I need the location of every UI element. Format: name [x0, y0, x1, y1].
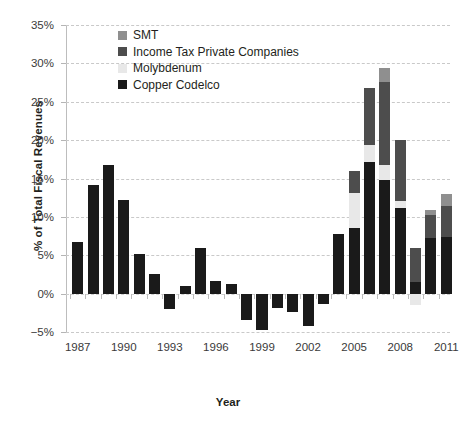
bar-group[interactable]	[103, 25, 114, 332]
bar-segment[interactable]	[364, 88, 375, 146]
bar-segment[interactable]	[103, 165, 114, 294]
bar-segment[interactable]	[379, 82, 390, 165]
bar-segment[interactable]	[349, 193, 360, 228]
bar-segment[interactable]	[287, 294, 298, 312]
x-tick-label: 2011	[423, 341, 463, 353]
x-tick-label: 1987	[55, 341, 101, 353]
x-tick-label: 1996	[193, 341, 239, 353]
x-tick-mark	[70, 294, 71, 299]
bar-segment[interactable]	[164, 294, 175, 309]
y-tick-label: 0%	[0, 288, 54, 300]
legend-label: Molybdenum	[133, 62, 202, 74]
bar-segment[interactable]	[379, 165, 390, 180]
x-tick-label: 2002	[285, 341, 331, 353]
bar-segment[interactable]	[441, 206, 452, 237]
bar-segment[interactable]	[149, 274, 160, 293]
x-tick-label: 1990	[101, 341, 147, 353]
bar-segment[interactable]	[118, 200, 129, 294]
bar-group[interactable]	[88, 25, 99, 332]
legend-label: Copper Codelco	[133, 79, 220, 91]
x-tick-label: 1993	[147, 341, 193, 353]
legend-item[interactable]: SMT	[118, 27, 368, 44]
y-tick-label: −5%	[0, 326, 54, 338]
bar-segment[interactable]	[395, 201, 406, 209]
bar-segment[interactable]	[303, 294, 314, 326]
bar-group[interactable]	[425, 25, 436, 332]
x-tick-label: 2005	[331, 341, 377, 353]
legend-item[interactable]: Income Tax Private Companies	[118, 44, 368, 61]
bar-segment[interactable]	[379, 180, 390, 294]
legend-swatch-icon	[118, 31, 127, 40]
bar-group[interactable]	[72, 25, 83, 332]
bar-group[interactable]	[410, 25, 421, 332]
bar-segment[interactable]	[395, 208, 406, 293]
bar-group[interactable]	[441, 25, 452, 332]
bar-segment[interactable]	[441, 237, 452, 294]
bar-segment[interactable]	[425, 238, 436, 293]
y-tick-label: 35%	[0, 19, 54, 31]
y-tick-label: 5%	[0, 249, 54, 261]
bar-segment[interactable]	[226, 284, 237, 293]
bar-segment[interactable]	[410, 294, 421, 306]
x-axis-title: Year	[0, 396, 456, 408]
x-tick-mark	[224, 294, 225, 299]
x-tick-mark	[270, 294, 271, 299]
x-tick-mark	[439, 294, 440, 299]
legend-item[interactable]: Copper Codelco	[118, 77, 368, 94]
bar-segment[interactable]	[364, 145, 375, 162]
bar-group[interactable]	[379, 25, 390, 332]
x-tick-mark	[316, 294, 317, 299]
bar-segment[interactable]	[241, 294, 252, 321]
legend-label: SMT	[133, 29, 158, 41]
bar-segment[interactable]	[195, 248, 206, 293]
x-tick-mark	[193, 294, 194, 299]
bar-segment[interactable]	[410, 282, 421, 294]
legend-item[interactable]: Molybdenum	[118, 60, 368, 77]
bar-segment[interactable]	[410, 248, 421, 283]
x-tick-mark	[178, 294, 179, 299]
bar-segment[interactable]	[441, 194, 452, 206]
bar-group[interactable]	[395, 25, 406, 332]
bar-segment[interactable]	[272, 294, 283, 309]
x-tick-mark	[331, 294, 332, 299]
y-tick-label: 25%	[0, 96, 54, 108]
x-tick-mark	[285, 294, 286, 299]
y-tick-label: 20%	[0, 134, 54, 146]
bar-segment[interactable]	[318, 294, 329, 304]
bar-segment[interactable]	[395, 140, 406, 201]
bar-segment[interactable]	[379, 68, 390, 82]
x-tick-mark	[85, 294, 86, 299]
bar-segment[interactable]	[88, 185, 99, 294]
x-tick-mark	[408, 294, 409, 299]
bar-segment[interactable]	[349, 228, 360, 293]
x-tick-mark	[239, 294, 240, 299]
bar-segment[interactable]	[425, 210, 436, 215]
x-tick-mark	[254, 294, 255, 299]
y-tick-label: 30%	[0, 57, 54, 69]
x-tick-mark	[346, 294, 347, 299]
bar-segment[interactable]	[134, 254, 145, 294]
y-tick-label: 15%	[0, 173, 54, 185]
legend-swatch-icon	[118, 64, 127, 73]
x-tick-mark	[131, 294, 132, 299]
x-tick-mark	[101, 294, 102, 299]
bar-segment[interactable]	[349, 171, 360, 193]
bar-segment[interactable]	[256, 294, 267, 330]
gridline	[66, 332, 450, 333]
y-tick-mark	[61, 332, 66, 333]
y-tick-label: 10%	[0, 211, 54, 223]
bar-segment[interactable]	[333, 234, 344, 294]
chart-legend: SMTIncome Tax Private CompaniesMolybdenu…	[118, 27, 368, 93]
legend-swatch-icon	[118, 47, 127, 56]
bar-segment[interactable]	[364, 162, 375, 293]
legend-swatch-icon	[118, 80, 127, 89]
bar-segment[interactable]	[210, 281, 221, 293]
x-tick-mark	[147, 294, 148, 299]
bar-segment[interactable]	[425, 215, 436, 238]
x-tick-mark	[116, 294, 117, 299]
bar-segment[interactable]	[72, 242, 83, 293]
bar-segment[interactable]	[180, 286, 191, 294]
legend-label: Income Tax Private Companies	[133, 46, 299, 58]
x-tick-mark	[393, 294, 394, 299]
